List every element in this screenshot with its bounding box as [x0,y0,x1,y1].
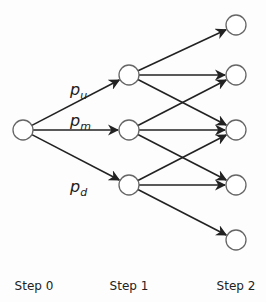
edge-arrow [138,190,226,235]
edge-arrow [32,135,119,180]
trinomial-tree-diagram: pupmpd Step 0Step 1Step 2 [0,0,266,302]
step-label: Step 0 [15,279,54,293]
step-labels: Step 0Step 1Step 2 [15,279,256,293]
tree-node-s1u [119,65,139,85]
tree-node-s1d [119,175,139,195]
probability-label-pd: pd [69,177,88,199]
tree-node-s2d [226,175,246,195]
tree-node-s2c [226,120,246,140]
nodes [13,15,246,250]
edge-arrow [138,30,226,71]
probability-labels: pupmpd [69,80,91,199]
tree-node-s1m [119,120,139,140]
probability-label-pm: pm [69,111,91,133]
probability-label-pu: pu [69,80,87,102]
tree-node-s2a [226,15,246,35]
step-label: Step 1 [110,279,149,293]
step-label: Step 2 [217,279,256,293]
tree-node-s2e [226,230,246,250]
tree-node-s2b [226,65,246,85]
tree-node-s0 [13,120,33,140]
